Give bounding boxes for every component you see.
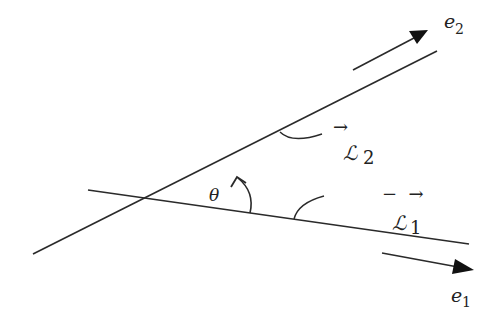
svg-text:1: 1 bbox=[462, 294, 471, 310]
svg-text:2: 2 bbox=[363, 147, 374, 168]
e2-label: e 2 bbox=[444, 10, 464, 37]
svg-text:e: e bbox=[444, 10, 455, 32]
arc-mark-l1-icon bbox=[294, 196, 324, 219]
e2-arrow-icon bbox=[353, 30, 428, 70]
l1-label: − → ℒ 1 bbox=[382, 183, 424, 238]
svg-text:ℒ: ℒ bbox=[392, 211, 407, 235]
l2-label: → ℒ 2 bbox=[333, 116, 374, 168]
svg-text:→: → bbox=[333, 116, 348, 137]
arc-mark-l2-icon bbox=[280, 132, 322, 139]
e1-arrow-icon bbox=[382, 253, 474, 274]
svg-text:1: 1 bbox=[410, 217, 421, 238]
svg-text:2: 2 bbox=[455, 21, 464, 37]
theta-label: θ bbox=[209, 185, 219, 205]
e1-label: e 1 bbox=[451, 284, 471, 310]
line-l2 bbox=[33, 51, 437, 254]
svg-text:− →: − → bbox=[382, 183, 424, 204]
svg-text:ℒ: ℒ bbox=[343, 141, 358, 165]
svg-text:e: e bbox=[451, 284, 462, 306]
diagram-canvas: θ e 2 e 1 → ℒ 2 − → ℒ 1 bbox=[0, 0, 504, 316]
angle-arc-icon bbox=[231, 177, 251, 213]
